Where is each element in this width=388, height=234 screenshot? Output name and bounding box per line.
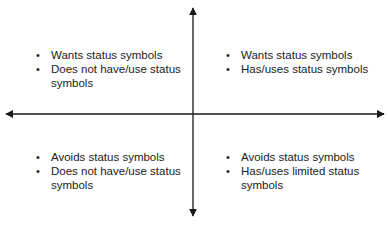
list-item: Avoids status symbols [226,150,386,164]
quadrant-list: Wants status symbols Does not have/use s… [36,48,186,90]
quadrant-list: Avoids status symbols Has/uses limited s… [226,150,386,192]
list-item: Has/uses status symbols [226,62,386,76]
quadrant-axes [0,0,388,234]
quadrant-top-left: Wants status symbols Does not have/use s… [36,48,186,90]
list-item: Does not have/use status symbols [36,62,186,90]
quadrant-list: Wants status symbols Has/uses status sym… [226,48,386,76]
list-item: Wants status symbols [36,48,186,62]
quadrant-bottom-right: Avoids status symbols Has/uses limited s… [226,150,386,192]
list-item: Has/uses limited status symbols [226,164,386,192]
quadrant-top-right: Wants status symbols Has/uses status sym… [226,48,386,76]
list-item: Does not have/use status symbols [36,164,186,192]
list-item: Avoids status symbols [36,150,186,164]
quadrant-list: Avoids status symbols Does not have/use … [36,150,186,192]
list-item: Wants status symbols [226,48,386,62]
quadrant-bottom-left: Avoids status symbols Does not have/use … [36,150,186,192]
